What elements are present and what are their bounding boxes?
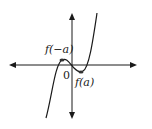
local-min-point [79,70,84,73]
origin-label: 0 [63,70,70,81]
x-axis-left-arrow-icon [9,62,16,68]
local-max-label: f(−a) [45,44,73,55]
local-max-point [60,58,65,61]
y-axis-up-arrow-icon [69,13,75,20]
local-min-label: f(a) [75,77,94,88]
y-axis-down-arrow-icon [69,112,75,119]
x-axis-right-arrow-icon [130,62,137,68]
graph-canvas [0,0,152,129]
